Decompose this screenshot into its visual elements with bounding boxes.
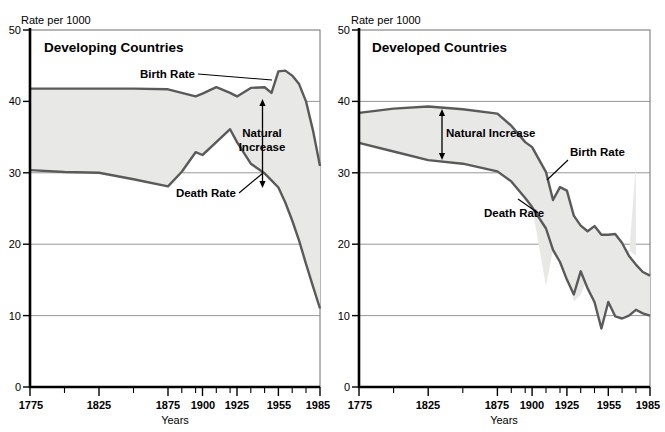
x-tick-label-1925-right: 1925 [555,399,579,411]
y-tick-label-0-right: 0 [344,381,350,393]
y-axis-unit-label: Rate per 1000 [21,14,91,26]
birth-rate-annotation-label-right: Birth Rate [570,146,625,158]
x-tick-label-1900-right: 1900 [520,399,544,411]
x-tick-label-1875-right: 1875 [485,399,509,411]
x-tick-label-1900: 1900 [191,399,215,411]
x-tick-label-1775-right: 1775 [348,399,372,411]
x-axis-tick-labels-right: 1775 1825 1875 1900 1925 1955 1985 [348,399,660,411]
y-tick-label-0: 0 [15,381,21,393]
birth-rate-annotation-label: Birth Rate [140,68,195,80]
x-tick-label-1825-right: 1825 [416,399,440,411]
death-rate-annotation-label: Death Rate [176,187,236,199]
developing-countries-chart-svg: Rate per 1000 [0,0,333,432]
y-tick-label-20-right: 20 [338,238,350,250]
x-tick-label-1825: 1825 [87,399,111,411]
y-tick-label-40-right: 40 [338,95,350,107]
x-axis-ticks [30,387,320,396]
y-tick-label-10: 10 [9,310,21,322]
y-tick-label-50: 50 [9,24,21,36]
y-axis-unit-label-right: Rate per 1000 [351,14,421,26]
developed-countries-chart-svg: Rate per 1000 [332,0,665,432]
y-tick-label-10-right: 10 [338,310,350,322]
x-tick-label-1775: 1775 [19,399,43,411]
death-rate-annotation-label-right: Death Rate [484,207,544,219]
natural-increase-label-right: Natural Increase [446,127,536,139]
chart-panel-developed: Rate per 1000 [332,0,665,432]
y-tick-label-50-right: 50 [338,24,350,36]
y-tick-label-20: 20 [9,238,21,250]
x-tick-label-1955-right: 1955 [597,399,621,411]
y-tick-label-40: 40 [9,95,21,107]
y-tick-label-30-right: 30 [338,167,350,179]
y-tick-label-30: 30 [9,167,21,179]
panel-title: Developing Countries [44,40,184,55]
y-axis-tick-labels-right: 50 40 30 20 10 0 [338,24,350,393]
x-tick-label-1985: 1985 [306,399,330,411]
x-axis-ticks-right [359,387,650,396]
x-tick-label-1985-right: 1985 [636,399,660,411]
x-axis-title-right: Years [490,414,518,426]
panel-title-right: Developed Countries [372,40,507,55]
x-axis-title: Years [161,414,189,426]
figure-root: Rate per 1000 [0,0,665,432]
chart-panel-developing: Rate per 1000 [0,0,333,432]
x-tick-label-1955: 1955 [267,399,291,411]
x-tick-label-1925: 1925 [225,399,249,411]
x-tick-label-1875: 1875 [156,399,180,411]
y-axis-tick-labels: 50 40 30 20 10 0 [9,24,21,393]
natural-increase-label-line1: Natural [242,127,282,139]
natural-increase-label-line2: Increase [239,141,286,153]
x-axis-tick-labels: 1775 1825 1875 1900 1925 1955 1985 [19,399,330,411]
